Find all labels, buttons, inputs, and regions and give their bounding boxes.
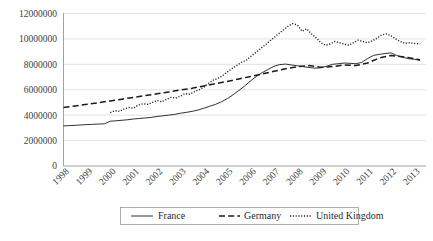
x-axis-tick-label: 2010 xyxy=(331,166,352,187)
x-axis-tick-label: 2008 xyxy=(284,166,305,187)
y-axis-tick-label: 2000000 xyxy=(24,136,58,146)
x-axis-tick-label: 2006 xyxy=(238,166,259,187)
x-axis-tick-label: 2009 xyxy=(308,166,329,187)
x-axis-tick-label: 2011 xyxy=(355,166,375,186)
gridlines xyxy=(64,14,427,141)
x-axis-tick-label: 2012 xyxy=(378,166,399,187)
x-axis-tick-label: 2003 xyxy=(167,166,188,187)
chart-container: 0200000040000006000000800000010000000120… xyxy=(0,0,433,241)
x-axis-tick-label: 2002 xyxy=(144,166,165,187)
chart-legend: FranceGermanyUnited Kingdom xyxy=(121,208,384,225)
x-axis-tick-labels: 1998199920002001200220032004200520062007… xyxy=(50,166,421,187)
legend-label-france: France xyxy=(158,210,186,221)
series-line-germany xyxy=(64,55,421,107)
x-axis-tick-label: 2005 xyxy=(214,166,235,187)
legend-label-germany: Germany xyxy=(244,210,281,221)
series-line-united-kingdom xyxy=(110,24,420,113)
line-chart: 0200000040000006000000800000010000000120… xyxy=(0,0,433,241)
x-axis-tick-label: 2007 xyxy=(261,166,282,187)
x-axis-tick-label: 2000 xyxy=(97,166,118,187)
x-axis-tick-label: 1999 xyxy=(74,166,95,187)
y-axis-tick-label: 6000000 xyxy=(24,85,58,95)
x-axis-tick-label: 2004 xyxy=(191,166,212,187)
legend-label-united-kingdom: United Kingdom xyxy=(316,210,384,221)
x-axis-tick-label: 2013 xyxy=(401,166,422,187)
y-axis-tick-label: 12000000 xyxy=(19,9,57,19)
x-axis-tick-label: 2001 xyxy=(121,166,142,187)
y-axis-tick-label: 4000000 xyxy=(24,111,58,121)
y-axis-tick-labels: 0200000040000006000000800000010000000120… xyxy=(19,9,57,172)
y-axis-tick-label: 10000000 xyxy=(19,34,57,44)
y-axis-tick-label: 8000000 xyxy=(24,60,58,70)
y-axis-tick-label: 0 xyxy=(52,161,57,171)
